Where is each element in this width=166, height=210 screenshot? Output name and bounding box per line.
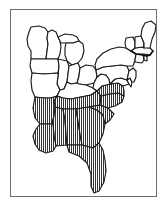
state-iowa xyxy=(30,59,59,74)
state-wisconsin xyxy=(46,30,61,59)
state-florida xyxy=(67,143,106,193)
map-svg xyxy=(11,10,156,196)
state-minnesota xyxy=(27,26,48,59)
state-michigan-lower xyxy=(65,41,84,65)
states-group xyxy=(27,21,156,193)
state-vermont xyxy=(125,37,135,51)
figure-root: Map of the eastern United States Black-a… xyxy=(0,0,166,210)
state-louisiana xyxy=(33,124,56,153)
map-frame xyxy=(10,9,157,197)
state-missouri xyxy=(31,73,60,98)
